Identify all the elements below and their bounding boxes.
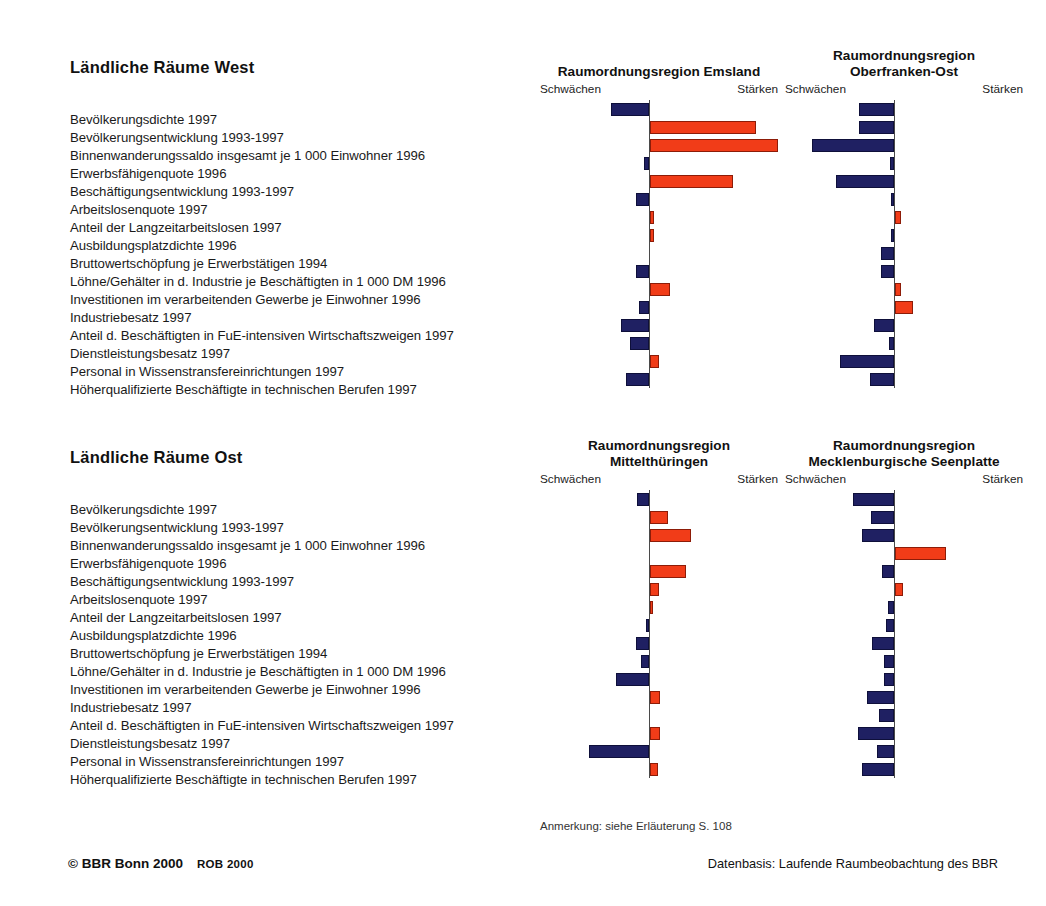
chart-title-line1: Raumordnungsregion — [833, 438, 975, 453]
chart-mecklenburgische-seenplatte: Raumordnungsregion Mecklenburgische Seen… — [785, 438, 1023, 778]
zero-axis-line — [894, 490, 895, 778]
bar-1 — [859, 121, 894, 134]
bar-6 — [888, 601, 894, 614]
bar-12 — [879, 709, 894, 722]
bar-13 — [650, 727, 660, 740]
bar-8 — [872, 637, 894, 650]
axis-caption-left: Schwächen — [785, 82, 846, 96]
indicator-label-ost-3: Erwerbsfähigenquote 1996 — [70, 555, 540, 573]
indicator-label-west-8: Bruttowertschöpfung je Erwerbstätigen 19… — [70, 255, 540, 273]
bar-1 — [650, 511, 668, 524]
bar-0 — [611, 103, 649, 116]
bar-14 — [650, 355, 659, 368]
bar-5 — [895, 583, 903, 596]
bar-10 — [884, 673, 894, 686]
bar-15 — [862, 763, 894, 776]
indicator-label-ost-2: Binnenwanderungssaldo insgesamt je 1 000… — [70, 537, 540, 555]
bar-15 — [626, 373, 649, 386]
indicator-label-west-14: Personal in Wissenstransfereinrichtungen… — [70, 363, 540, 381]
indicator-label-ost-9: Löhne/Gehälter in d. Industrie je Beschä… — [70, 663, 540, 681]
bar-4 — [650, 565, 686, 578]
bar-9 — [881, 265, 894, 278]
axis-captions-oberfranken-ost: Schwächen Stärken — [785, 80, 1023, 100]
indicator-label-west-0: Bevölkerungsdichte 1997 — [70, 111, 540, 129]
axis-caption-right: Stärken — [982, 82, 1023, 96]
indicator-label-list-west: Bevölkerungsdichte 1997Bevölkerungsentwi… — [70, 111, 540, 399]
bar-1 — [650, 121, 756, 134]
bar-5 — [650, 583, 659, 596]
axis-captions-mecklenburgische-seenplatte: Schwächen Stärken — [785, 470, 1023, 490]
axis-caption-left: Schwächen — [540, 472, 601, 486]
bar-13 — [858, 727, 894, 740]
indicator-label-west-2: Binnenwanderungssaldo insgesamt je 1 000… — [70, 147, 540, 165]
chart-oberfranken-ost: Raumordnungsregion Oberfranken-Ost Schwä… — [785, 48, 1023, 388]
bar-13 — [889, 337, 894, 350]
indicator-label-ost-12: Anteil d. Beschäftigten in FuE-intensive… — [70, 717, 540, 735]
chart-title-line1: Raumordnungsregion — [588, 438, 730, 453]
indicator-label-west-13: Dienstleistungsbesatz 1997 — [70, 345, 540, 363]
figure-note: Anmerkung: siehe Erläuterung S. 108 — [540, 820, 732, 832]
axis-caption-right: Stärken — [982, 472, 1023, 486]
bar-11 — [639, 301, 649, 314]
chart-title-line1: Raumordnungsregion Emsland — [558, 64, 760, 79]
chart-title-line2: Oberfranken-Ost — [785, 64, 1023, 80]
bar-10 — [895, 283, 901, 296]
bar-11 — [895, 301, 913, 314]
bar-7 — [650, 229, 654, 242]
indicator-label-west-12: Anteil d. Beschäftigten in FuE-intensive… — [70, 327, 540, 345]
axis-caption-right: Stärken — [737, 82, 778, 96]
bar-7 — [891, 229, 894, 242]
data-source-text: Datenbasis: Laufende Raumbeobachtung des… — [708, 856, 998, 871]
plot-area-mittelthueringen — [540, 490, 778, 778]
bar-14 — [840, 355, 894, 368]
bar-9 — [884, 655, 894, 668]
indicator-label-ost-7: Ausbildungsplatzdichte 1996 — [70, 627, 540, 645]
axis-caption-right: Stärken — [737, 472, 778, 486]
bar-2 — [650, 529, 691, 542]
bar-11 — [867, 691, 894, 704]
indicator-label-west-5: Arbeitslosenquote 1997 — [70, 201, 540, 219]
chart-title-line2: Mecklenburgische Seenplatte — [785, 454, 1023, 470]
chart-title-oberfranken-ost: Raumordnungsregion Oberfranken-Ost — [785, 48, 1023, 80]
bar-14 — [589, 745, 649, 758]
bar-2 — [650, 139, 778, 152]
indicator-label-ost-1: Bevölkerungsentwicklung 1993-1997 — [70, 519, 540, 537]
indicator-label-west-4: Beschäftigungsentwicklung 1993-1997 — [70, 183, 540, 201]
plot-area-emsland — [540, 100, 778, 388]
chart-title-line2: Mittelthüringen — [540, 454, 778, 470]
chart-emsland: Raumordnungsregion Emsland Schwächen Stä… — [540, 64, 778, 388]
bar-5 — [636, 193, 649, 206]
bar-15 — [870, 373, 894, 386]
bar-7 — [646, 619, 649, 632]
indicator-label-west-11: Industriebesatz 1997 — [70, 309, 540, 327]
bar-4 — [836, 175, 894, 188]
indicator-label-west-15: Höherqualifizierte Beschäftigte in techn… — [70, 381, 540, 399]
axis-captions-emsland: Schwächen Stärken — [540, 80, 778, 100]
indicator-label-west-9: Löhne/Gehälter in d. Industrie je Beschä… — [70, 273, 540, 291]
bar-0 — [637, 493, 649, 506]
chart-title-line1: Raumordnungsregion — [833, 48, 975, 63]
bar-9 — [641, 655, 649, 668]
bar-10 — [650, 283, 670, 296]
figure-root: Ländliche Räume West Bevölkerungsdichte … — [0, 0, 1046, 906]
indicator-label-ost-8: Bruttowertschöpfung je Erwerbstätigen 19… — [70, 645, 540, 663]
axis-caption-left: Schwächen — [540, 82, 601, 96]
indicator-label-ost-11: Industriebesatz 1997 — [70, 699, 540, 717]
bar-5 — [891, 193, 894, 206]
zero-axis-line — [894, 100, 895, 388]
indicator-label-ost-15: Höherqualifizierte Beschäftigte in techn… — [70, 771, 540, 789]
bar-3 — [644, 157, 649, 170]
section-title-ost: Ländliche Räume Ost — [70, 448, 243, 467]
bar-2 — [862, 529, 894, 542]
bar-14 — [877, 745, 894, 758]
indicator-label-west-7: Ausbildungsplatzdichte 1996 — [70, 237, 540, 255]
indicator-label-ost-10: Investitionen im verarbeitenden Gewerbe … — [70, 681, 540, 699]
report-code: ROB 2000 — [197, 858, 254, 870]
indicator-label-ost-5: Arbeitslosenquote 1997 — [70, 591, 540, 609]
axis-caption-left: Schwächen — [785, 472, 846, 486]
indicator-label-ost-14: Personal in Wissenstransfereinrichtungen… — [70, 753, 540, 771]
bar-6 — [650, 211, 654, 224]
indicator-label-ost-4: Beschäftigungsentwicklung 1993-1997 — [70, 573, 540, 591]
indicator-label-ost-0: Bevölkerungsdichte 1997 — [70, 501, 540, 519]
bar-6 — [895, 211, 901, 224]
